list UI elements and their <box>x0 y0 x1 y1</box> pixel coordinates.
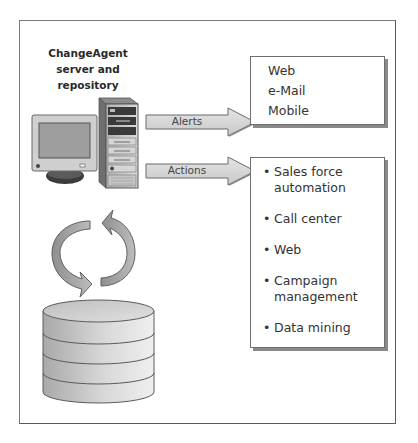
action-target-text: Data mining <box>274 320 384 336</box>
action-target-text: Call center <box>274 211 384 227</box>
computer-monitor-icon <box>32 115 97 184</box>
database-cylinder-icon <box>43 300 154 403</box>
actions-label: Actions <box>146 164 228 176</box>
action-target-text: Campaign <box>274 273 384 289</box>
action-target-campaign: • Campaign management <box>263 273 384 305</box>
action-target-text: Web <box>274 242 384 258</box>
action-target-text: management <box>274 289 384 305</box>
action-target-web: • Web <box>263 242 384 258</box>
action-target-data-mining: • Data mining <box>263 320 384 336</box>
bullet-icon: • <box>263 211 270 227</box>
channel-mobile: Mobile <box>268 101 384 121</box>
alert-channels-box: Web e-Mail Mobile <box>250 56 385 125</box>
action-target-text: Sales force <box>274 164 384 180</box>
server-tower-icon <box>99 98 138 188</box>
channel-web: Web <box>268 61 384 81</box>
bullet-icon: • <box>263 164 270 180</box>
channel-email: e-Mail <box>268 81 384 101</box>
action-target-sales-force: • Sales force automation <box>263 164 384 196</box>
sync-cycle-arrows-icon <box>52 210 135 297</box>
action-targets-box: • Sales force automation • Call center •… <box>250 157 385 348</box>
action-target-call-center: • Call center <box>263 211 384 227</box>
bullet-icon: • <box>263 273 270 289</box>
alerts-label: Alerts <box>146 115 228 127</box>
action-target-text: automation <box>274 180 384 196</box>
bullet-icon: • <box>263 242 270 258</box>
bullet-icon: • <box>263 320 270 336</box>
